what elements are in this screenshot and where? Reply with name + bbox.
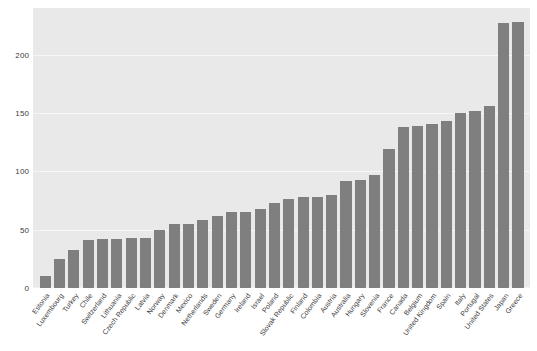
bar — [369, 175, 380, 288]
x-tick: France — [383, 288, 394, 351]
x-tick: Hungary — [355, 288, 366, 351]
x-tick: Norway — [154, 288, 165, 351]
bar — [140, 238, 151, 288]
x-tick: Switzerland — [97, 288, 108, 351]
bar-series — [33, 8, 530, 288]
y-tick-label: 50 — [20, 225, 29, 234]
bar — [355, 180, 366, 289]
bar — [183, 224, 194, 288]
bar — [398, 127, 409, 288]
bar — [426, 124, 437, 289]
x-tick-labels: EstoniaLuxembourgTurkeyChileSwitzerlandL… — [33, 288, 530, 351]
y-tick-label: 0 — [24, 284, 29, 293]
bar — [68, 250, 79, 289]
y-tick-label: 100 — [15, 167, 29, 176]
y-axis: 050100150200 — [0, 8, 33, 288]
bar — [484, 106, 495, 288]
x-tick: Japan — [498, 288, 509, 351]
x-tick: Turkey — [68, 288, 79, 351]
x-tick: Canada — [398, 288, 409, 351]
bar — [312, 197, 323, 288]
bar — [383, 149, 394, 288]
x-tick: Slovenia — [369, 288, 380, 351]
x-tick: Latvia — [140, 288, 151, 351]
bar — [226, 212, 237, 288]
bar — [498, 23, 509, 288]
bar — [326, 195, 337, 288]
bar — [126, 238, 137, 288]
x-tick: Spain — [441, 288, 452, 351]
bar — [83, 240, 94, 288]
x-tick: Denmark — [169, 288, 180, 351]
bar — [269, 203, 280, 288]
bar — [169, 224, 180, 288]
x-tick: Australia — [340, 288, 351, 351]
x-tick: United States — [484, 288, 495, 351]
x-tick: United Kingdom — [426, 288, 437, 351]
x-tick: Israel — [255, 288, 266, 351]
bar — [441, 121, 452, 288]
x-tick: Germany — [226, 288, 237, 351]
bar — [298, 197, 309, 288]
x-tick: Ireland — [240, 288, 251, 351]
bar — [97, 239, 108, 288]
bar — [412, 126, 423, 288]
bar — [111, 239, 122, 288]
bar — [154, 230, 165, 288]
bar-chart-figure: 050100150200 EstoniaLuxembourgTurkeyChil… — [0, 0, 537, 351]
y-tick-label: 200 — [15, 50, 29, 59]
y-tick-label: 150 — [15, 109, 29, 118]
x-tick: Colombia — [312, 288, 323, 351]
bar — [54, 259, 65, 288]
bar — [240, 212, 251, 288]
bar — [212, 216, 223, 288]
bar — [469, 111, 480, 288]
bar — [40, 276, 51, 288]
bar — [340, 181, 351, 288]
x-tick: Sweden — [212, 288, 223, 351]
x-tick: Czech Republic — [126, 288, 137, 351]
x-tick: Luxembourg — [54, 288, 65, 351]
bar — [197, 220, 208, 288]
bar — [283, 199, 294, 288]
x-tick: Austria — [326, 288, 337, 351]
x-tick: Netherlands — [197, 288, 208, 351]
bar — [512, 22, 523, 288]
x-tick: Italy — [455, 288, 466, 351]
bar — [455, 113, 466, 288]
plot-area — [33, 8, 530, 288]
bar — [255, 209, 266, 288]
x-tick: Slovak Republic — [283, 288, 294, 351]
x-tick-label: Spain — [435, 292, 452, 311]
x-axis: EstoniaLuxembourgTurkeyChileSwitzerlandL… — [33, 288, 530, 351]
x-tick: Greece — [512, 288, 523, 351]
